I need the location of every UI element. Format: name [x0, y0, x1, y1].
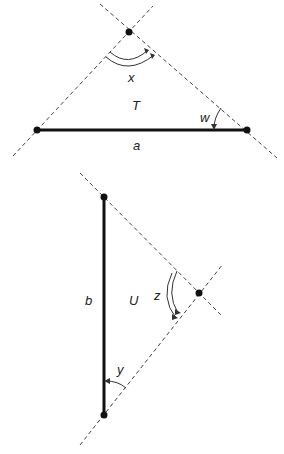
angle-w-label: w: [200, 110, 211, 125]
angle-x-arc-inner: [110, 50, 148, 60]
right-point: [244, 127, 251, 134]
region-t-label: T: [132, 98, 141, 113]
diagram-canvas: x T w a b U z y: [0, 0, 284, 454]
angle-x-arc-outer: [106, 55, 154, 66]
figure-bottom: b U z y: [80, 173, 223, 445]
angle-z-label: z: [153, 288, 161, 303]
segment-a-label: a: [133, 138, 140, 153]
top-point: [101, 194, 108, 201]
angle-z-arc-inner: [172, 271, 178, 313]
angle-z-arrow-inner: [175, 309, 181, 315]
angle-x-arrow-outer: [150, 53, 155, 59]
dashed-line-right: [100, 4, 277, 158]
bottom-point: [101, 412, 108, 419]
vertex-point: [196, 290, 203, 297]
left-point: [34, 127, 41, 134]
region-u-label: U: [129, 293, 139, 308]
segment-b-label: b: [85, 293, 92, 308]
angle-x-label: x: [127, 70, 135, 85]
apex-point: [126, 29, 133, 36]
figure-top: x T w a: [13, 4, 277, 158]
angle-y-label: y: [116, 362, 125, 377]
